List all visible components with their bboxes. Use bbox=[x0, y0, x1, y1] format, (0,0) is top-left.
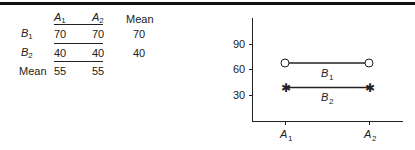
series-label-b1-sub: 1 bbox=[329, 73, 334, 82]
interaction-plot: 90 60 30 A 1 A 2 B 1 ✱ ✱ B 2 bbox=[0, 0, 415, 150]
b2-marker-a2: ✱ bbox=[365, 81, 375, 95]
xtick-a1-sub: 1 bbox=[288, 134, 293, 143]
b1-marker-a2 bbox=[365, 59, 373, 67]
series-label-b2: B bbox=[321, 91, 328, 103]
xtick-a2-sub: 2 bbox=[372, 134, 377, 143]
ytick-60: 60 bbox=[233, 63, 245, 75]
series-label-b2-sub: 2 bbox=[329, 97, 334, 106]
b1-marker-a1 bbox=[281, 59, 289, 67]
ytick-90: 90 bbox=[233, 38, 245, 50]
series-label-b1: B bbox=[321, 67, 328, 79]
xtick-a1: A bbox=[279, 128, 287, 140]
b2-marker-a1: ✱ bbox=[281, 81, 291, 95]
xtick-a2: A bbox=[363, 128, 371, 140]
ytick-30: 30 bbox=[233, 89, 245, 101]
